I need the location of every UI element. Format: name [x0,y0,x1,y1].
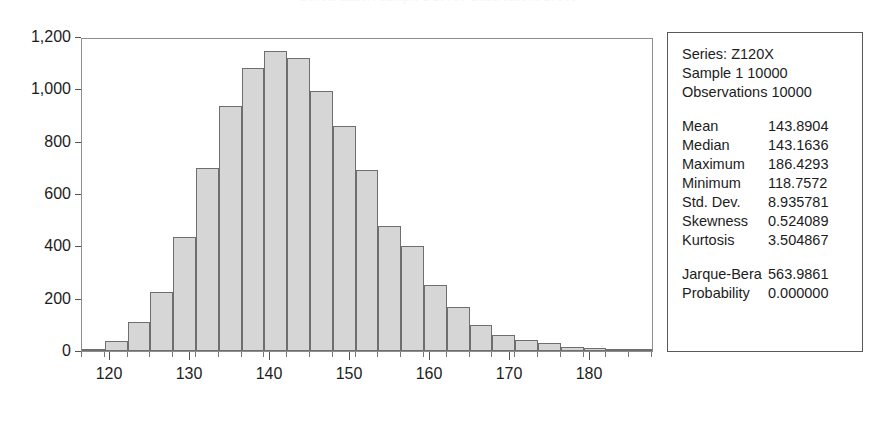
histogram-bar [264,51,287,351]
x-axis-minor-tick [172,352,173,357]
x-axis-minor-tick [377,352,378,357]
x-axis-minor-tick [400,352,401,357]
x-axis-minor-tick [263,352,264,357]
stats-row: Mean143.8904 [682,117,852,136]
stats-label: Skewness [682,212,768,231]
x-axis-minor-tick [469,352,470,357]
histogram-bar [333,126,356,351]
stats-row: Maximum186.4293 [682,155,852,174]
histogram-bar [310,91,333,351]
histogram-bar [196,168,219,351]
stats-spacer-top [682,102,862,117]
x-axis-minor-tick [355,352,356,357]
x-axis-minor-tick [149,352,150,357]
stats-test-row: Probability0.000000 [682,284,852,303]
histogram-bar [424,285,447,351]
histogram-bar [584,348,607,351]
x-axis-major-tick [589,352,590,360]
x-tick-label: 120 [96,364,123,384]
x-axis-minor-tick [560,352,561,357]
stats-value: 143.8904 [768,117,852,136]
x-axis-minor-tick [651,352,652,357]
x-axis-major-tick [349,352,350,360]
x-axis-minor-tick [81,352,82,357]
x-tick-label: 170 [496,364,523,384]
plot-area [82,39,652,351]
x-axis-minor-tick [286,352,287,357]
x-axis: 120130140150160170180 [81,352,653,423]
x-axis-minor-tick [218,352,219,357]
statistics-panel: Series: Z120X Sample 1 10000 Observation… [667,32,863,352]
histogram-bar [242,68,265,351]
stats-label: Probability [682,284,768,303]
x-axis-minor-tick [332,352,333,357]
stats-label: Mean [682,117,768,136]
stats-value: 0.524089 [768,212,852,231]
x-axis-minor-tick [605,352,606,357]
stats-value: 186.4293 [768,155,852,174]
x-axis-minor-tick [241,352,242,357]
x-axis-minor-tick [423,352,424,357]
stats-value: 118.7572 [768,174,852,193]
y-tick-label: 600 [44,184,71,204]
x-axis-major-tick [269,352,270,360]
x-axis-major-tick [509,352,510,360]
x-axis-minor-tick [309,352,310,357]
stats-row: Std. Dev.8.935781 [682,193,852,212]
y-axis: 02004006008001,0001,200 [0,0,81,423]
x-axis-minor-tick [127,352,128,357]
histogram-bar [447,307,470,351]
y-tick-label: 0 [62,341,71,361]
stats-row: Skewness0.524089 [682,212,852,231]
stats-label: Maximum [682,155,768,174]
x-axis-minor-tick [628,352,629,357]
histogram-bar [356,170,379,351]
plot-frame [81,38,653,352]
histogram-bar [378,226,401,351]
stats-value: 3.504867 [768,231,852,250]
x-tick-label: 160 [416,364,443,384]
histogram-bar [128,322,151,351]
histogram-bar [561,347,584,351]
stats-rows: Mean143.8904Median143.1636Maximum186.429… [682,117,862,250]
x-axis-major-tick [189,352,190,360]
histogram-figure: 02004006008001,0001,200 1201301401501601… [0,0,876,423]
y-tick-label: 1,000 [31,79,71,99]
histogram-bar [150,292,173,351]
stats-label: Std. Dev. [682,193,768,212]
y-tick-label: 1,200 [31,27,71,47]
histogram-bar [82,349,105,351]
stats-observations-line: Observations 10000 [682,83,862,102]
x-axis-minor-tick [514,352,515,357]
stats-value: 563.9861 [768,265,852,284]
stats-row: Minimum118.7572 [682,174,852,193]
x-axis-minor-tick [537,352,538,357]
x-axis-minor-tick [104,352,105,357]
stats-label: Minimum [682,174,768,193]
histogram-bar [606,349,629,351]
stats-test-rows: Jarque-Bera563.9861Probability0.000000 [682,265,862,303]
histogram-bar [173,237,196,351]
y-tick-label: 200 [44,289,71,309]
y-tick-label: 400 [44,236,71,256]
histogram-bar [470,325,493,351]
stats-row: Median143.1636 [682,136,852,155]
histogram-bar [287,58,310,351]
stats-label: Kurtosis [682,231,768,250]
x-axis-minor-tick [446,352,447,357]
stats-test-row: Jarque-Bera563.9861 [682,265,852,284]
stats-series-line: Series: Z120X [682,45,862,64]
x-tick-label: 130 [176,364,203,384]
x-axis-major-tick [429,352,430,360]
x-tick-label: 180 [576,364,603,384]
histogram-bar [105,341,128,351]
histogram-bar [219,106,242,351]
x-axis-minor-tick [583,352,584,357]
x-tick-label: 140 [256,364,283,384]
histogram-bar [492,335,515,351]
stats-sample-line: Sample 1 10000 [682,64,862,83]
stats-label: Jarque-Bera [682,265,768,284]
stats-value: 143.1636 [768,136,852,155]
x-tick-label: 150 [336,364,363,384]
stats-spacer-bottom [682,250,862,265]
